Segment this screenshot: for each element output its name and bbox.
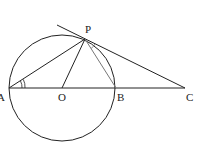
angle-mark-a-2	[23, 79, 25, 88]
label-c: C	[186, 91, 193, 103]
label-b: B	[117, 91, 124, 103]
label-a: A	[0, 91, 5, 103]
label-p: P	[85, 23, 91, 35]
label-o: O	[58, 91, 66, 103]
geometry-diagram: P A O B C	[0, 0, 197, 151]
angle-mark-a-1	[21, 81, 23, 88]
tangent-line-pc	[57, 25, 185, 88]
